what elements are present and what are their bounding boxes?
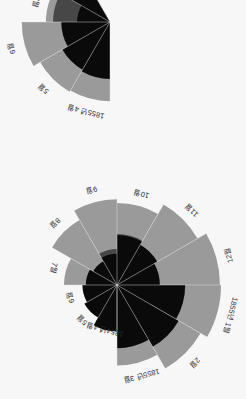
month-label: 1855년 1월: [221, 296, 239, 334]
top-rose-wedges: [52, 199, 221, 368]
rotated-canvas: 1854년 4월5월6월7월8월9월10월11월12월1855년 1월2월185…: [0, 0, 246, 399]
month-label: 6월: [65, 291, 77, 304]
month-label: 1855년 3월: [122, 367, 160, 385]
month-label: 12월: [222, 246, 235, 263]
month-label: 1855년 4월: [67, 102, 105, 120]
bottom-rose-wedges: [22, 0, 110, 101]
month-label: 10월: [133, 188, 150, 201]
month-label: 7월: [48, 261, 60, 274]
month-label: 8월: [48, 216, 62, 230]
month-label: 6월: [6, 42, 18, 55]
month-label: 7월: [30, 0, 42, 9]
month-label: 9월: [85, 184, 98, 196]
rose-chart-svg: 1854년 4월5월6월7월8월9월10월11월12월1855년 1월2월185…: [0, 0, 246, 399]
month-label: 2월: [188, 356, 202, 370]
month-label: 5월: [36, 81, 50, 95]
month-label: 11월: [183, 202, 200, 219]
rose-diagram-figure: 1854년 4월5월6월7월8월9월10월11월12월1855년 1월2월185…: [0, 0, 246, 399]
